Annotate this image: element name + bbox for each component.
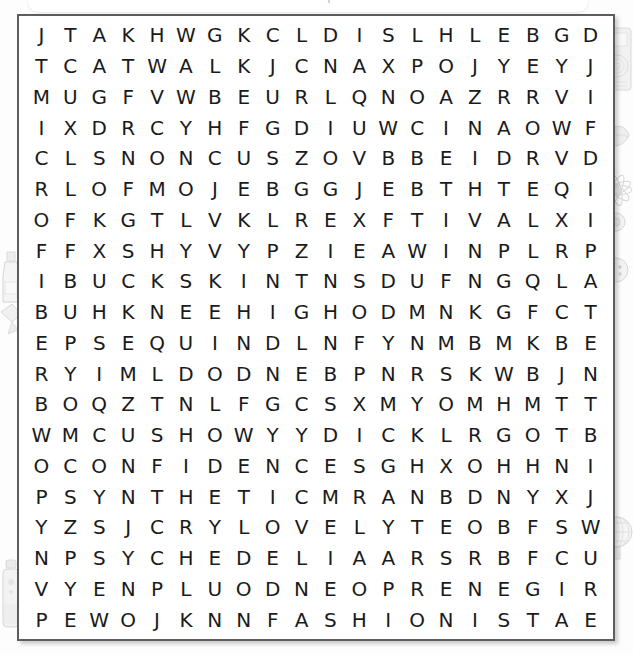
letter-cell[interactable]: B [518,20,547,51]
letter-cell[interactable]: D [200,451,229,482]
letter-cell[interactable]: C [547,297,576,328]
letter-cell[interactable]: R [547,235,576,266]
letter-cell[interactable]: W [171,82,200,113]
letter-cell[interactable]: E [576,604,605,635]
letter-cell[interactable]: L [56,143,85,174]
letter-cell[interactable]: M [143,174,172,205]
letter-cell[interactable]: H [460,174,489,205]
letter-cell[interactable]: S [258,143,287,174]
letter-cell[interactable]: G [489,266,518,297]
letter-cell[interactable]: N [460,266,489,297]
letter-cell[interactable]: R [287,205,316,236]
letter-cell[interactable]: J [258,51,287,82]
letter-cell[interactable]: L [432,420,461,451]
letter-cell[interactable]: V [27,574,56,605]
letter-cell[interactable]: Y [85,481,114,512]
letter-cell[interactable]: Q [518,266,547,297]
letter-cell[interactable]: S [432,358,461,389]
letter-cell[interactable]: K [518,328,547,359]
letter-cell[interactable]: J [345,174,374,205]
letter-cell[interactable]: T [432,174,461,205]
letter-cell[interactable]: Z [56,512,85,543]
letter-cell[interactable]: Y [287,420,316,451]
letter-cell[interactable]: F [258,604,287,635]
letter-cell[interactable]: Y [403,389,432,420]
letter-cell[interactable]: L [200,51,229,82]
letter-cell[interactable]: S [85,143,114,174]
letter-cell[interactable]: L [460,20,489,51]
letter-cell[interactable]: C [143,112,172,143]
letter-cell[interactable]: F [345,328,374,359]
letter-cell[interactable]: O [171,174,200,205]
letter-cell[interactable]: D [171,358,200,389]
letter-cell[interactable]: O [403,82,432,113]
letter-cell[interactable]: H [85,297,114,328]
letter-cell[interactable]: P [576,235,605,266]
letter-cell[interactable]: G [316,174,345,205]
letter-cell[interactable]: F [518,512,547,543]
letter-cell[interactable]: Y [489,51,518,82]
letter-cell[interactable]: H [143,235,172,266]
letter-cell[interactable]: Y [171,112,200,143]
letter-cell[interactable]: U [258,82,287,113]
letter-cell[interactable]: A [374,235,403,266]
letter-cell[interactable]: I [200,328,229,359]
letter-cell[interactable]: O [345,297,374,328]
letter-cell[interactable]: H [171,543,200,574]
letter-cell[interactable]: E [374,174,403,205]
letter-cell[interactable]: N [114,481,143,512]
letter-cell[interactable]: Y [27,512,56,543]
letter-cell[interactable]: G [258,112,287,143]
letter-cell[interactable]: X [345,389,374,420]
letter-cell[interactable]: N [547,451,576,482]
letter-cell[interactable]: Z [287,235,316,266]
letter-cell[interactable]: X [547,205,576,236]
letter-cell[interactable]: B [489,543,518,574]
letter-cell[interactable]: B [432,481,461,512]
letter-cell[interactable]: T [143,205,172,236]
letter-cell[interactable]: I [432,205,461,236]
letter-cell[interactable]: R [171,512,200,543]
letter-cell[interactable]: D [576,143,605,174]
letter-cell[interactable]: F [143,451,172,482]
letter-cell[interactable]: A [432,82,461,113]
letter-cell[interactable]: O [27,451,56,482]
letter-cell[interactable]: N [374,82,403,113]
letter-cell[interactable]: S [143,420,172,451]
letter-cell[interactable]: Y [56,358,85,389]
letter-cell[interactable]: J [200,174,229,205]
letter-cell[interactable]: G [489,297,518,328]
letter-cell[interactable]: A [345,51,374,82]
letter-cell[interactable]: B [258,174,287,205]
letter-cell[interactable]: L [171,574,200,605]
letter-cell[interactable]: S [547,512,576,543]
letter-cell[interactable]: O [56,389,85,420]
letter-cell[interactable]: L [258,205,287,236]
letter-cell[interactable]: A [374,481,403,512]
letter-cell[interactable]: X [547,481,576,512]
letter-cell[interactable]: P [403,51,432,82]
letter-cell[interactable]: G [200,20,229,51]
letter-cell[interactable]: E [316,451,345,482]
letter-cell[interactable]: H [518,451,547,482]
letter-cell[interactable]: I [576,82,605,113]
letter-cell[interactable]: N [258,451,287,482]
letter-cell[interactable]: I [576,451,605,482]
letter-cell[interactable]: N [200,604,229,635]
letter-cell[interactable]: D [229,543,258,574]
letter-cell[interactable]: W [576,512,605,543]
letter-cell[interactable]: H [316,297,345,328]
letter-cell[interactable]: I [316,543,345,574]
letter-cell[interactable]: S [316,604,345,635]
letter-cell[interactable]: T [143,481,172,512]
letter-cell[interactable]: E [229,174,258,205]
letter-cell[interactable]: S [56,481,85,512]
letter-cell[interactable]: A [374,543,403,574]
letter-cell[interactable]: Y [374,328,403,359]
letter-cell[interactable]: N [114,574,143,605]
letter-cell[interactable]: A [489,205,518,236]
letter-cell[interactable]: B [489,512,518,543]
letter-cell[interactable]: O [143,143,172,174]
letter-cell[interactable]: F [27,235,56,266]
letter-cell[interactable]: S [114,235,143,266]
